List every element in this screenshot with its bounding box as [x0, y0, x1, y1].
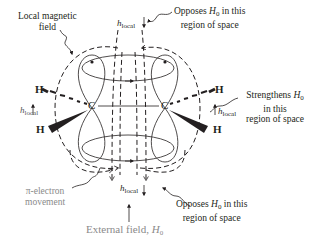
label-h-local-top: hlocal: [117, 18, 135, 32]
label-pi-electron-movement: π-electron movement: [25, 186, 65, 207]
electron-dot-right: [163, 60, 166, 63]
hydrogen-bottom-right: H: [213, 123, 222, 135]
induced-field-lines: [55, 30, 200, 180]
label-h-local-left: hlocal: [20, 105, 38, 119]
carbon-left: C: [88, 99, 95, 111]
ch-bonds: [42, 89, 215, 133]
label-opposes-bottom: Opposes H0 in this region of space: [176, 199, 247, 223]
hydrogen-top-left: H: [35, 83, 44, 95]
label-external-field: External field, H0: [86, 224, 163, 239]
label-strengthens: Strengthens H0 in this region of space: [246, 90, 304, 125]
carbon-right: C: [161, 99, 168, 111]
label-h-local-right: hlocal: [218, 106, 236, 120]
hydrogen-top-right: H: [215, 83, 224, 95]
diagram-canvas: C C H H H H Local magnetic field hlocal …: [0, 0, 326, 241]
label-local-magnetic-field: Local magnetic field: [18, 11, 77, 32]
electron-dot-left: [90, 60, 93, 63]
label-h-local-bottom: hlocal: [120, 183, 138, 197]
label-opposes-top: Opposes H0 in this region of space: [174, 6, 245, 30]
hydrogen-bottom-left: H: [36, 123, 45, 135]
leader-lines: [60, 12, 238, 206]
